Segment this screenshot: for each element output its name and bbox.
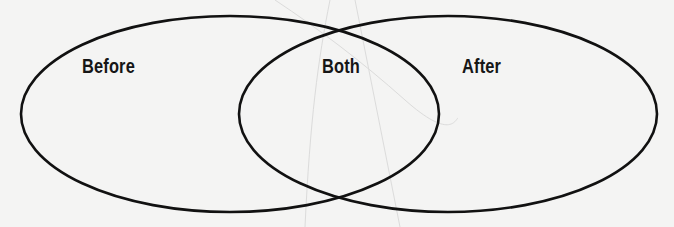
before-set-label: Before (82, 55, 135, 77)
after-set-label: After (462, 55, 501, 77)
intersection-label: Both (322, 55, 360, 77)
venn-diagram-canvas (0, 0, 674, 227)
scan-bleed-through (275, 0, 458, 227)
before-set-ellipse (21, 16, 439, 212)
after-set-ellipse (239, 16, 657, 212)
venn-diagram: Before Both After (0, 0, 674, 227)
